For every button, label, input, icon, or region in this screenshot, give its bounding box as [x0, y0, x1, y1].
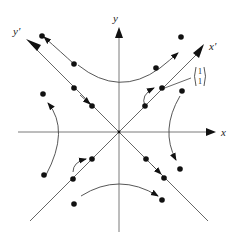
- y-prime-axis: [26, 39, 208, 221]
- trajectory-left: [40, 91, 58, 178]
- trajectory-bottom: [71, 184, 165, 207]
- x-axis-arrow-icon: [206, 128, 216, 136]
- x-axis-label: x: [220, 126, 226, 138]
- trajectory-yprime-upper: [71, 85, 95, 109]
- trajectory-top: [39, 33, 184, 82]
- trajectory-right: [169, 88, 185, 172]
- trajectory-yprime-lower: [143, 156, 167, 181]
- y-prime-axis-label: y′: [12, 25, 21, 37]
- y-axis-label: y: [112, 12, 118, 24]
- svg-text:1: 1: [198, 67, 202, 76]
- y-axis-arrow-icon: [115, 27, 123, 38]
- phase-portrait: x y x′ y′ 1 1: [0, 0, 240, 244]
- origin-point: [118, 131, 121, 134]
- x-axis: [18, 128, 216, 136]
- svg-text:1: 1: [198, 77, 202, 86]
- x-prime-axis-label: x′: [208, 40, 217, 52]
- y-prime-arrow-icon: [26, 39, 41, 51]
- eigenvector-leader-line: [162, 78, 191, 89]
- eigenvector-label: 1 1: [195, 67, 206, 86]
